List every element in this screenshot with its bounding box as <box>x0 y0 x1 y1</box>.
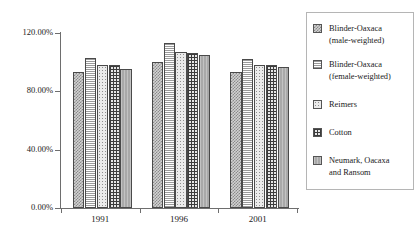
legend-item[interactable]: Neumark, Oacaxa and Ransom <box>313 155 389 178</box>
bar <box>152 62 163 208</box>
legend-swatch-icon <box>313 156 322 165</box>
bar-group <box>152 33 210 208</box>
bar <box>164 43 175 208</box>
bar-group <box>73 33 131 208</box>
bar <box>73 72 84 208</box>
legend-label: Cotton <box>329 127 352 139</box>
bar <box>109 65 120 208</box>
x-tick-mark <box>140 208 141 213</box>
legend-label: Blinder-Oaxaca (male-weighted) <box>329 23 384 46</box>
legend-label: Reimers <box>329 99 357 111</box>
x-tick-mark <box>218 208 219 213</box>
bar <box>230 72 241 208</box>
bar <box>266 65 277 208</box>
y-tick-label: 0.00% <box>31 202 53 212</box>
legend-item[interactable]: Reimers <box>313 99 357 111</box>
x-tick-mark <box>61 208 62 213</box>
x-tick-label: 1996 <box>140 214 219 224</box>
legend-label: Neumark, Oacaxa and Ransom <box>329 155 389 178</box>
x-tick-label: 1991 <box>61 214 140 224</box>
x-tick-label: 2001 <box>218 214 297 224</box>
bar-group <box>230 33 288 208</box>
bar <box>242 59 253 208</box>
y-tick-label: 40.00% <box>27 144 53 154</box>
plot-area <box>61 33 297 208</box>
legend-swatch-icon <box>313 60 322 69</box>
legend-item[interactable]: Blinder-Oaxaca (male-weighted) <box>313 23 384 46</box>
y-tick-label: 80.00% <box>27 85 53 95</box>
bar <box>97 65 108 208</box>
bar <box>85 58 96 208</box>
x-axis-line <box>60 208 299 209</box>
x-tick-mark <box>297 208 298 213</box>
bar <box>175 52 186 208</box>
legend-swatch-icon <box>313 128 322 137</box>
legend-swatch-icon <box>313 24 322 33</box>
y-tick-label: 120.00% <box>23 27 53 37</box>
legend-item[interactable]: Blinder-Oaxaca (female-weighted) <box>313 59 391 82</box>
legend-label: Blinder-Oaxaca (female-weighted) <box>329 59 391 82</box>
bar-chart: 120.00%80.00%40.00%0.00% 199119962001 Bl… <box>0 0 419 230</box>
bar <box>120 69 131 208</box>
bar <box>278 67 289 208</box>
legend-swatch-icon <box>313 100 322 109</box>
legend: Blinder-Oaxaca (male-weighted)Blinder-Oa… <box>306 12 414 190</box>
legend-item[interactable]: Cotton <box>313 127 352 139</box>
bar <box>254 65 265 208</box>
bar <box>199 55 210 208</box>
bar <box>187 53 198 208</box>
